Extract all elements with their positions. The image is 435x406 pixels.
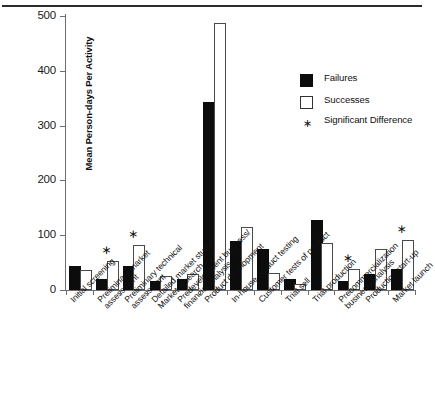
- x-axis-tick: [361, 290, 362, 295]
- bar-group: ∗: [334, 16, 361, 290]
- top-rule-divider: [2, 5, 422, 7]
- y-axis-tick-label: 500: [16, 10, 56, 22]
- x-axis-tick: [308, 290, 309, 295]
- chart-legend: Failures Successes ∗ Significant Differe…: [300, 72, 420, 138]
- significance-star-icon: ∗: [389, 223, 414, 235]
- legend-star-icon: ∗: [302, 117, 313, 130]
- bar-group: ∗: [93, 16, 120, 290]
- y-axis-tick-label: 200: [16, 174, 56, 186]
- legend-swatch-successes-icon: [300, 96, 313, 109]
- y-axis-tick-label: 400: [16, 65, 56, 77]
- y-axis-tick-label: 300: [16, 120, 56, 132]
- legend-label-significant-difference: Significant Difference: [324, 115, 412, 125]
- legend-item-failures: Failures: [300, 72, 420, 90]
- legend-label-significant-line1: Significant: [324, 114, 367, 125]
- legend-swatch-failures-icon: [300, 74, 313, 87]
- legend-label-failures: Failures: [324, 73, 357, 83]
- legend-item-successes: Successes: [300, 94, 420, 112]
- significance-star-icon: ∗: [121, 228, 146, 240]
- x-axis-tick: [200, 290, 201, 295]
- x-axis-tick: [388, 290, 389, 295]
- x-axis-tick: [227, 290, 228, 295]
- y-axis-tick-label: 100: [16, 229, 56, 241]
- x-axis-tick: [93, 290, 94, 295]
- x-axis-tick: [415, 290, 416, 295]
- x-axis-tick: [147, 290, 148, 295]
- y-axis-tick-label: 0: [16, 284, 56, 296]
- x-axis-tick: [66, 290, 67, 295]
- significance-star-icon: ∗: [94, 244, 119, 256]
- legend-label-significant-line2: Difference: [370, 114, 413, 125]
- x-axis-tick: [334, 290, 335, 295]
- x-axis-tick: [120, 290, 121, 295]
- x-axis-tick: [281, 290, 282, 295]
- legend-label-successes: Successes: [324, 95, 370, 105]
- bar-group: [66, 16, 93, 290]
- x-axis-tick: [254, 290, 255, 295]
- x-axis-tick: [173, 290, 174, 295]
- legend-item-significant-difference: ∗ Significant Difference: [300, 116, 420, 134]
